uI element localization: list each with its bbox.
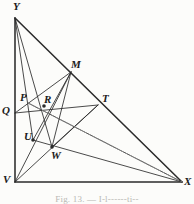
point-label-w: W <box>51 150 61 161</box>
side-YX <box>15 18 182 182</box>
figure-caption: Fig. 13. — I-l------ti-- <box>0 194 194 204</box>
point-label-u: U <box>24 131 32 142</box>
point-label-q: Q <box>2 105 10 116</box>
cevian-V-M <box>15 72 71 182</box>
point-label-r: R <box>44 94 51 105</box>
segment-T-W <box>52 105 98 147</box>
point-label-t: T <box>102 93 109 104</box>
vertex-label-y: Y <box>13 1 20 12</box>
cevian-Y-W <box>15 18 52 147</box>
point-label-m: M <box>71 59 81 70</box>
vertex-label-x: X <box>184 176 191 187</box>
point-label-p: P <box>20 92 27 103</box>
geometry-diagram <box>0 0 194 204</box>
cevian-Y-U <box>15 18 33 140</box>
segment-M-U <box>33 72 71 140</box>
solid-lines-group <box>15 18 182 182</box>
figure-container: Y V X M T P Q R U W Fig. 13. — I-l------… <box>0 0 194 204</box>
vertex-label-v: V <box>3 174 10 185</box>
segment-Q-T <box>15 105 98 113</box>
